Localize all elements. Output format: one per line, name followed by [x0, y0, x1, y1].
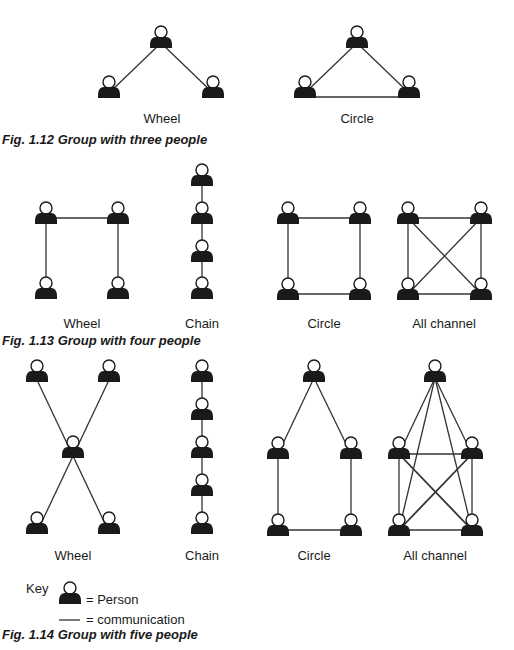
person-icon [461, 437, 483, 459]
person-icon [340, 514, 362, 536]
network-label: Wheel [64, 316, 101, 331]
person-icon [470, 278, 492, 300]
person-icon [191, 512, 213, 534]
person-icon [191, 398, 213, 420]
person-icon [346, 26, 368, 48]
person-icon [303, 360, 325, 382]
figure-caption: Fig. 1.14 Group with five people [2, 627, 198, 642]
person-icon [191, 164, 213, 186]
person-icon [398, 76, 420, 98]
figure-caption: Fig. 1.13 Group with four people [2, 333, 201, 348]
person-icon [150, 26, 172, 48]
person-icon [461, 514, 483, 536]
person-icon [107, 277, 129, 299]
person-icon [191, 360, 213, 382]
person-icon [98, 360, 120, 382]
network-label: Circle [297, 548, 330, 563]
network-label: Wheel [55, 548, 92, 563]
person-icon [107, 202, 129, 224]
network-label: All channel [403, 548, 467, 563]
person-icon [26, 360, 48, 382]
person-icon [191, 240, 213, 262]
person-icon [277, 202, 299, 224]
person-icon [191, 474, 213, 496]
person-icon [397, 202, 419, 224]
person-icon [202, 76, 224, 98]
key-person-icon [59, 582, 81, 604]
person-icon [98, 76, 120, 98]
figure-caption: Fig. 1.12 Group with three people [2, 132, 207, 147]
network-label: Circle [340, 111, 373, 126]
person-icon [340, 437, 362, 459]
person-icon [191, 202, 213, 224]
person-icon [35, 202, 57, 224]
person-icon [470, 202, 492, 224]
person-icon [388, 514, 410, 536]
key-person-label: = Person [86, 592, 138, 607]
person-icon [397, 278, 419, 300]
person-icon [267, 437, 289, 459]
network-label: All channel [412, 316, 476, 331]
person-icon [35, 277, 57, 299]
network-label: Circle [307, 316, 340, 331]
person-icon [191, 277, 213, 299]
network-label: Chain [185, 548, 219, 563]
person-icon [294, 76, 316, 98]
person-icon [349, 278, 371, 300]
key-title: Key [26, 581, 48, 596]
network-label: Chain [185, 316, 219, 331]
network-label: Wheel [144, 111, 181, 126]
person-icon [388, 437, 410, 459]
person-icon [267, 514, 289, 536]
person-icon [424, 360, 446, 382]
key-communication-label: = communication [86, 612, 185, 627]
person-icon [277, 278, 299, 300]
person-icon [349, 202, 371, 224]
person-icon [191, 436, 213, 458]
